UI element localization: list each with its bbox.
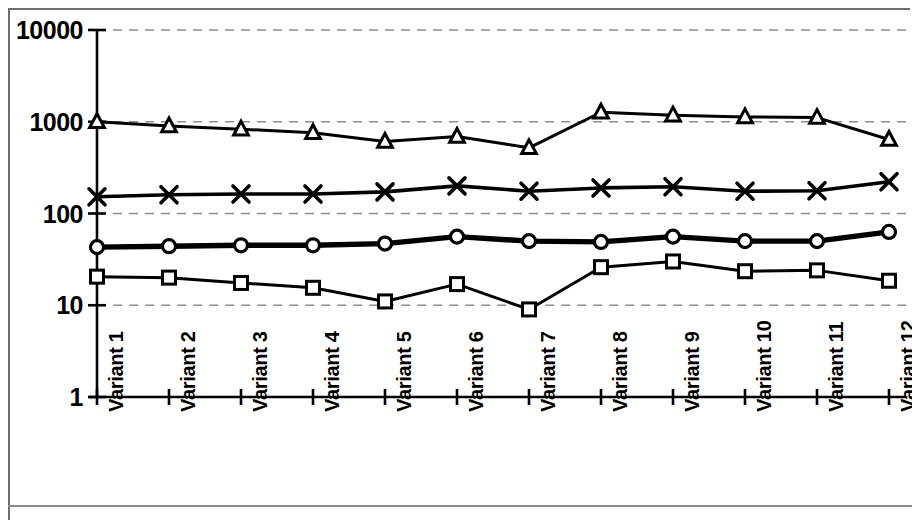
marker-triangle [882, 132, 897, 146]
series-line-x [97, 182, 889, 197]
marker-square [91, 270, 104, 283]
marker-square [883, 274, 896, 287]
marker-triangle [90, 114, 105, 128]
marker-circle [307, 239, 320, 252]
marker-triangle [594, 104, 609, 118]
marker-square [163, 271, 176, 284]
marker-square [595, 261, 608, 274]
chart-figure: 100001000100101 Variant 1Variant 2Varian… [0, 0, 912, 529]
marker-circle [523, 235, 536, 248]
marker-circle [811, 235, 824, 248]
series-line-circle [97, 232, 889, 247]
y-tick-label-10: 10 [56, 291, 83, 320]
marker-triangle [162, 118, 177, 132]
series-line-square [97, 261, 889, 309]
marker-circle [595, 235, 608, 248]
marker-circle [883, 225, 896, 238]
marker-circle [91, 241, 104, 254]
marker-triangle [378, 133, 393, 147]
marker-triangle [666, 107, 681, 121]
marker-square [451, 278, 464, 291]
y-tick-label-1: 1 [70, 383, 83, 412]
marker-circle [163, 240, 176, 253]
marker-circle [451, 230, 464, 243]
marker-circle [379, 237, 392, 250]
marker-square [523, 303, 536, 316]
y-tick-label-10000: 10000 [16, 16, 83, 45]
series-line-triangle [97, 112, 889, 148]
y-tick-label-100: 100 [43, 199, 83, 228]
marker-square [667, 255, 680, 268]
marker-triangle [450, 129, 465, 143]
marker-triangle [810, 110, 825, 124]
marker-triangle [306, 125, 321, 139]
marker-square [739, 265, 752, 278]
line-chart-plot-area [0, 0, 912, 529]
marker-square [811, 264, 824, 277]
marker-circle [739, 235, 752, 248]
marker-triangle [738, 109, 753, 123]
marker-square [307, 281, 320, 294]
marker-square [235, 276, 248, 289]
y-tick-label-1000: 1000 [29, 107, 83, 136]
marker-circle [235, 239, 248, 252]
marker-circle [667, 230, 680, 243]
marker-square [379, 295, 392, 308]
marker-triangle [234, 121, 249, 135]
marker-triangle [522, 140, 537, 154]
